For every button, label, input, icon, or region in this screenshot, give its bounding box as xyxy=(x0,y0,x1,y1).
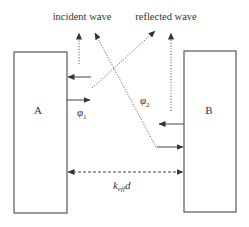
phi1-subscript: 1 xyxy=(83,113,87,121)
diagram-canvas: incident wave reflected wave A B φ1 φ2 k… xyxy=(0,0,249,227)
box-b-label: B xyxy=(205,104,212,116)
incident-wave-label: incident wave xyxy=(53,11,112,22)
box-a-label: A xyxy=(34,104,42,116)
distance-d: d xyxy=(125,179,131,191)
distance-label: keffd xyxy=(113,179,131,193)
box-b: B xyxy=(184,51,236,212)
reflected-wave-dotted-arrow-a xyxy=(92,31,155,88)
phi2-subscript: 2 xyxy=(146,101,150,109)
reflected-wave-label: reflected wave xyxy=(135,11,197,22)
box-a: A xyxy=(14,52,67,213)
phi1-label: φ1 xyxy=(77,106,87,121)
box-a-rect xyxy=(14,52,67,213)
phi2-label: φ2 xyxy=(140,94,150,109)
incident-wave-dotted-arrow-b xyxy=(95,33,156,147)
wave-reflection-diagram: incident wave reflected wave A B φ1 φ2 k… xyxy=(0,0,249,227)
box-b-rect xyxy=(184,51,236,212)
